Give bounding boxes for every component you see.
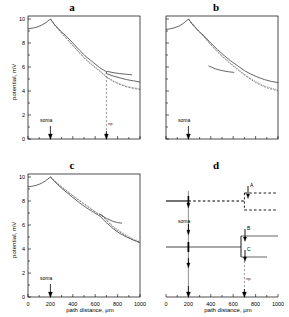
curve-main-solid: [28, 177, 140, 242]
svg-text:8: 8: [22, 198, 25, 204]
panel-d-letter: d: [206, 159, 226, 171]
panel-c-soma-arrow: [48, 284, 52, 298]
panel-d-soma-tick-up: [187, 196, 190, 208]
panel-d-schematic: 0 200 400 600 800 1000: [144, 158, 289, 317]
figure-root: a potential, mV 10 8 6 4 2 0: [0, 0, 289, 317]
panel-c-ylabel: potential, mV: [11, 222, 17, 258]
curve-nexus-sidebranch: [106, 71, 132, 75]
panel-c-yticks: [28, 177, 31, 297]
curve-main-solid: [166, 19, 278, 83]
curve-branch-dotted: [188, 19, 278, 90]
svg-text:2: 2: [22, 270, 25, 276]
svg-text:0: 0: [26, 301, 29, 307]
panel-d-branch-a-label: A: [250, 182, 253, 188]
svg-text:10: 10: [19, 16, 25, 22]
panel-c-xticks: [28, 294, 140, 297]
curve-branch-dotted: [50, 177, 140, 242]
panel-c: c potential, mV 10 8 6 4 2 0: [0, 158, 145, 317]
panel-d-branch-b-label: B: [247, 225, 250, 231]
panel-b-curves: [166, 19, 278, 91]
panel-c-soma-label: soma: [40, 275, 52, 281]
panel-d-xlabel: path distance, μm: [172, 307, 284, 313]
panel-b-letter: b: [206, 1, 226, 13]
panel-a-ylabel: potential, mV: [11, 64, 17, 100]
svg-text:4: 4: [22, 88, 25, 94]
panel-c-ytick-labels: 10 8 6 4 2 0: [19, 174, 25, 300]
panel-a-curves: [28, 19, 140, 90]
panel-d-apical-tree: [166, 193, 278, 210]
curve-side-branch: [100, 214, 122, 223]
curve-main-solid: [28, 19, 140, 82]
panel-d-soma-tick-low: [187, 258, 190, 268]
panel-a: a potential, mV 10 8 6 4 2 0: [0, 0, 145, 158]
svg-text:0: 0: [22, 294, 25, 300]
panel-b: b soma: [144, 0, 289, 158]
panel-c-plot: 10 8 6 4 2 0 0 200 400 600: [0, 158, 145, 317]
svg-text:8: 8: [22, 40, 25, 46]
svg-text:0: 0: [164, 301, 167, 307]
panel-d-soma-label: soma: [178, 218, 190, 224]
panel-d-nexus-arrow-axis: [242, 289, 246, 298]
panel-a-yticks: [28, 19, 31, 139]
panel-a-soma-arrow: [48, 126, 52, 140]
curve-branch-dashed: [50, 177, 140, 243]
panel-d-basal-tree: [166, 236, 278, 257]
panel-a-nexus-arrow: [104, 131, 108, 140]
curve-branch-dashed: [50, 19, 140, 90]
panel-b-plot: [144, 0, 289, 158]
panel-b-yticks: [166, 19, 169, 139]
panel-c-curves: [28, 177, 140, 243]
panel-b-xticks: [166, 136, 278, 139]
svg-text:0: 0: [22, 136, 25, 142]
svg-text:4: 4: [22, 246, 25, 252]
panel-d-soma-arrow-axis: [186, 286, 190, 298]
svg-text:10: 10: [19, 174, 25, 180]
panel-d-nexus-label: np.: [246, 276, 252, 281]
panel-b-soma-arrow: [186, 126, 190, 140]
panel-b-soma-label: soma: [178, 117, 190, 123]
panel-a-xticks: [28, 136, 140, 139]
panel-a-soma-label: soma: [40, 117, 52, 123]
curve-branch-dotted: [50, 19, 140, 89]
svg-text:2: 2: [22, 112, 25, 118]
panel-a-plot: 10 8 6 4 2 0: [0, 0, 145, 158]
panel-d-soma-tick-down: [187, 224, 190, 235]
panel-a-letter: a: [62, 1, 82, 13]
curve-branch-dashed: [188, 19, 278, 91]
panel-d-xticks: [166, 294, 278, 297]
panel-a-ytick-labels: 10 8 6 4 2 0: [19, 16, 25, 142]
panel-c-xlabel: path distance, μm: [34, 307, 146, 313]
panel-d-branch-c-label: C: [247, 246, 251, 252]
panel-c-letter: c: [62, 159, 82, 171]
svg-text:6: 6: [22, 222, 25, 228]
panel-a-nexus-label: np.: [108, 121, 114, 126]
svg-text:6: 6: [22, 64, 25, 70]
panel-d: d 0 200 400 600 800 1000: [144, 158, 289, 317]
curve-side-branch: [209, 66, 235, 73]
